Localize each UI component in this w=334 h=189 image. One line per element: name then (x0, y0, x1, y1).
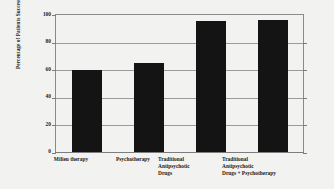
tick-left-0 (52, 153, 56, 154)
x-axis-line (55, 152, 304, 153)
y-tick-label-40: 40 (29, 94, 51, 99)
bar-traditional-antipsychotic-drugs-plus-psychotherapy (258, 20, 288, 153)
y-tick-label-80: 80 (29, 39, 51, 44)
bar-milieu-therapy (72, 70, 102, 153)
bar-slot-2 (118, 15, 180, 153)
y-axis-title: Percentage of Patients Successfully Trea… (15, 0, 21, 85)
x-label-line: Drugs + Psychotherapy (222, 170, 314, 177)
bar-traditional-antipsychotic-drugs (196, 21, 226, 153)
tick-right-0 (303, 153, 307, 154)
bar-chart: Percentage of Patients Successfully Trea… (0, 0, 334, 189)
plot-area (55, 14, 304, 153)
bar-psychotherapy (134, 63, 164, 153)
y-tick-label-0: 0 (29, 149, 51, 154)
x-label-line: Traditional (222, 156, 314, 163)
x-label-traditional-antipsychotic-drugs-plus-psychotherapy: Traditional Antipsychotic Drugs + Psycho… (222, 156, 314, 178)
bar-slot-4 (242, 15, 304, 153)
y-tick-label-20: 20 (29, 122, 51, 127)
x-label-line: Antipsychotic (222, 163, 314, 170)
bar-slot-3 (180, 15, 242, 153)
y-tick-label-60: 60 (29, 67, 51, 72)
bar-slot-1 (56, 15, 118, 153)
y-tick-label-100: 100 (29, 12, 51, 17)
